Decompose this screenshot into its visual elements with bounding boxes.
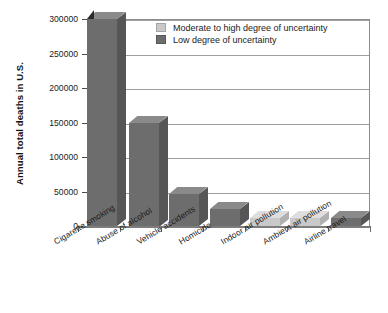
bar-side-face [159, 115, 168, 226]
y-axis-tick-label: 250000 [32, 50, 78, 58]
legend-swatch-low [156, 35, 166, 44]
legend-label: Low degree of uncertainty [173, 35, 277, 45]
legend-item: Moderate to high degree of uncertainty [143, 22, 370, 33]
y-axis-tick-label: 200000 [32, 84, 78, 92]
bar-front-face [210, 209, 240, 226]
y-axis-tick-label: 150000 [32, 119, 78, 127]
bar-chart: Annual total deaths in U.S. 050000100000… [0, 0, 388, 313]
bar-side-face [117, 12, 126, 226]
y-axis-tick-label: 100000 [32, 153, 78, 161]
legend-label: Moderate to high degree of uncertainty [173, 23, 328, 33]
bar-front-face [87, 19, 117, 226]
truncation-arrow-icon [87, 10, 94, 19]
y-axis-title: Annual total deaths in U.S. [14, 29, 25, 219]
bars-layer [87, 19, 370, 226]
legend: Moderate to high degree of uncertaintyLo… [143, 19, 370, 49]
y-axis-tick-label: 50000 [32, 188, 78, 196]
x-axis-tick-mark [370, 226, 371, 232]
y-axis-ticks: 050000100000150000200000250000300000 [32, 0, 82, 230]
legend-item: Low degree of uncertainty [143, 34, 370, 45]
bar [210, 209, 240, 226]
legend-swatch-moderate-high [156, 23, 166, 32]
y-axis-tick-label: 300000 [32, 15, 78, 23]
bar [87, 19, 117, 226]
